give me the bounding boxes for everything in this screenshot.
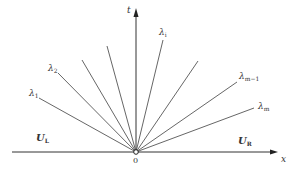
x-axis-label: x <box>281 155 286 164</box>
wave-line-lambda-i <box>136 40 163 152</box>
wave-label-lambda-m-1: λm−1 <box>239 72 259 82</box>
left-state-subscript: L <box>45 137 49 144</box>
wave-line-wave-4 <box>107 46 136 152</box>
wave-line-lambda-m-1 <box>136 82 237 152</box>
x-axis-arrow-icon <box>270 150 278 155</box>
t-axis-arrow-icon <box>134 8 139 17</box>
wave-label-lambda-i: λi <box>159 28 167 38</box>
wave-label-lambda-m: λm <box>258 102 269 112</box>
wave-label-lambda-2: λ2 <box>48 64 58 74</box>
wave-lines <box>39 40 254 152</box>
lambda-subscript: i <box>165 31 167 38</box>
origin-label: 0 <box>133 157 138 165</box>
t-axis-label: t <box>127 6 131 15</box>
right-state-symbol: U <box>238 135 247 146</box>
origin-marker-icon <box>134 150 139 155</box>
riemann-fan-diagram <box>0 0 291 175</box>
wave-line-wave-6 <box>136 61 198 152</box>
left-state-symbol: U <box>36 132 45 143</box>
lambda-subscript: m−1 <box>245 75 260 82</box>
lambda-subscript: 1 <box>35 92 39 99</box>
lambda-subscript: 2 <box>54 67 58 74</box>
wave-line-lambda-1 <box>39 98 136 152</box>
right-state-label: UR <box>238 136 252 147</box>
wave-line-lambda-m <box>136 108 254 152</box>
wave-label-lambda-1: λ1 <box>29 89 39 99</box>
left-state-label: UL <box>36 133 49 144</box>
lambda-subscript: m <box>264 105 270 112</box>
right-state-subscript: R <box>247 140 252 147</box>
